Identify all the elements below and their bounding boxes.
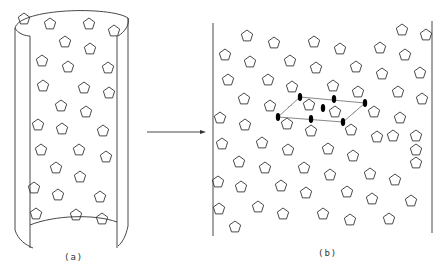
- arrow-icon: [147, 130, 206, 134]
- panel-a-label: (a): [64, 252, 83, 262]
- marker-dots: [276, 93, 367, 126]
- panel-b-label: (b): [318, 248, 337, 258]
- plane-pentagons: [212, 24, 431, 232]
- diagram-figure: [0, 0, 441, 271]
- cylinder-pentagons: [18, 13, 119, 224]
